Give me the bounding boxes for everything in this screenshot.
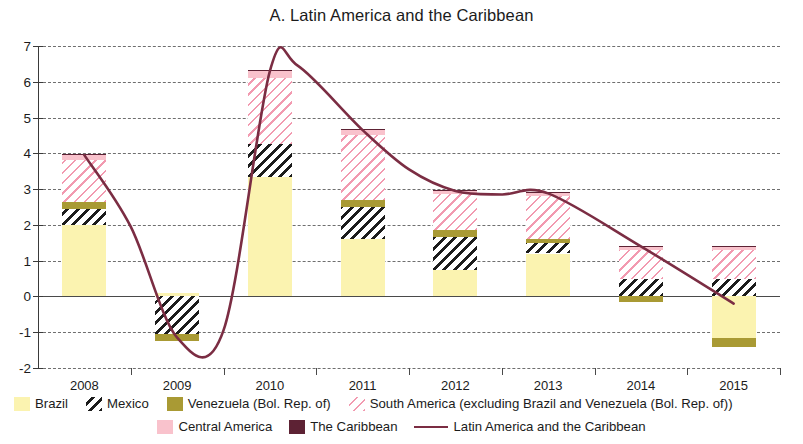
- x-tick-2008: [131, 368, 132, 375]
- legend-row-1: BrazilMexicoVenezuela (Bol. Rep. of)Sout…: [0, 392, 803, 415]
- y-axis-label-0: 0: [23, 289, 31, 304]
- y-tick--2: [33, 368, 43, 369]
- legend-swatch-south-america: [349, 397, 365, 411]
- y-axis-label-7: 7: [23, 39, 31, 54]
- y-axis-label-5: 5: [23, 110, 31, 125]
- legend-label: The Caribbean: [310, 419, 397, 434]
- legend-item-south-america[interactable]: South America (excluding Brazil and Vene…: [349, 396, 733, 411]
- line-path-latin-america-caribbean: [84, 47, 733, 357]
- x-tick-2015: [780, 368, 781, 375]
- x-tick-2009: [224, 368, 225, 375]
- x-axis-label-2015: 2015: [719, 378, 748, 393]
- plot-area: 76543210-1-2 200820092010201120122013201…: [38, 46, 780, 368]
- legend-item-central-america[interactable]: Central America: [157, 419, 272, 434]
- y-axis-label-4: 4: [23, 146, 31, 161]
- x-axis-label-2008: 2008: [70, 378, 99, 393]
- x-tick-2013: [595, 368, 596, 375]
- legend-label: Mexico: [107, 396, 149, 411]
- plot-inner: 76543210-1-2 200820092010201120122013201…: [38, 46, 780, 368]
- legend-item-line[interactable]: Latin America and the Caribbean: [414, 419, 645, 434]
- y-axis-label-2: 2: [23, 217, 31, 232]
- y-axis-label-6: 6: [23, 74, 31, 89]
- x-tick-2012: [502, 368, 503, 375]
- legend-row-2: Central AmericaThe CaribbeanLatin Americ…: [0, 415, 803, 438]
- x-axis-label-2014: 2014: [626, 378, 655, 393]
- y-axis-label-1: 1: [23, 253, 31, 268]
- legend-item-venezuela[interactable]: Venezuela (Bol. Rep. of): [167, 396, 331, 411]
- legend-label: Latin America and the Caribbean: [453, 419, 645, 434]
- chart-legend: BrazilMexicoVenezuela (Bol. Rep. of)Sout…: [0, 392, 803, 438]
- legend-swatch-line: [414, 426, 448, 428]
- legend-label: Brazil: [35, 396, 68, 411]
- y-axis-label-3: 3: [23, 182, 31, 197]
- legend-swatch-brazil: [14, 397, 30, 411]
- legend-label: South America (excluding Brazil and Vene…: [370, 396, 733, 411]
- legend-item-mexico[interactable]: Mexico: [86, 396, 149, 411]
- x-tick-2014: [687, 368, 688, 375]
- x-axis-label-2013: 2013: [534, 378, 563, 393]
- x-axis-label-2012: 2012: [441, 378, 470, 393]
- legend-label: Venezuela (Bol. Rep. of): [188, 396, 331, 411]
- legend-item-caribbean[interactable]: The Caribbean: [289, 419, 397, 434]
- x-axis-label-2009: 2009: [163, 378, 192, 393]
- legend-swatch-mexico: [86, 397, 102, 411]
- y-axis-label--1: -1: [19, 325, 31, 340]
- x-tick-2011: [409, 368, 410, 375]
- legend-swatch-venezuela: [167, 397, 183, 411]
- x-axis-label-2010: 2010: [255, 378, 284, 393]
- x-tick-2010: [316, 368, 317, 375]
- legend-label: Central America: [178, 419, 272, 434]
- legend-swatch-caribbean: [289, 420, 305, 434]
- chart-title: A. Latin America and the Caribbean: [0, 6, 803, 25]
- legend-swatch-central-america: [157, 420, 173, 434]
- chart-container: A. Latin America and the Caribbean 76543…: [0, 0, 803, 444]
- x-axis-label-2011: 2011: [349, 378, 377, 393]
- y-axis-label--2: -2: [19, 361, 31, 376]
- legend-item-brazil[interactable]: Brazil: [14, 396, 68, 411]
- line-series-latin-america: [38, 46, 780, 368]
